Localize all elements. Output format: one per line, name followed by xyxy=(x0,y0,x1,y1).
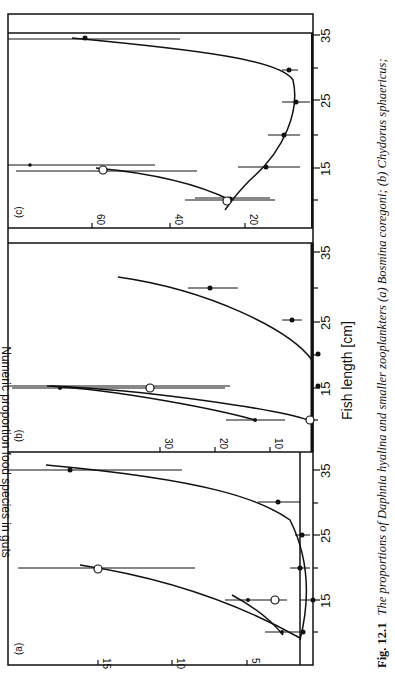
panel-a-ytick-5: 5 xyxy=(250,658,261,664)
panel-c-xtick-15: 15 xyxy=(318,162,333,176)
panel-a-label: (a) xyxy=(13,643,24,655)
figure-caption: Fig. 12.1 The proportions of Daphnia hya… xyxy=(375,58,389,668)
panel-a-xtick-25: 25 xyxy=(318,529,333,543)
panel-b-ytick-30: 30 xyxy=(163,438,174,450)
panel-b-xtick-15: 15 xyxy=(318,382,333,396)
panel-a-xtick-35: 35 xyxy=(318,464,333,478)
panel-c-xtick-25: 25 xyxy=(318,94,333,108)
panel-b-xtick-25: 25 xyxy=(318,316,333,330)
panel-c-ytick-20: 20 xyxy=(248,214,259,226)
panel-c-ytick-40: 40 xyxy=(173,214,184,226)
panel-a-ytick-15: 15 xyxy=(101,658,112,670)
panel-c-ytick-60: 60 xyxy=(95,214,106,226)
panel-a-xtick-15: 15 xyxy=(318,594,333,608)
panel-c-curve-filled xyxy=(72,38,295,210)
caption-label: Fig. 12.1 xyxy=(375,623,389,668)
panel-c-curve-open xyxy=(96,168,230,200)
figure-frame xyxy=(8,14,313,665)
panel-b-ytick-10: 10 xyxy=(273,438,284,450)
y-axis-label: Numeric proportion food species in guts xyxy=(0,346,13,557)
x-axis-label: Fish length [cm] xyxy=(339,321,355,420)
figure: (a) (b) (c) 5 10 15 10 20 30 20 40 60 15… xyxy=(0,0,395,673)
caption-text: The proportions of Daphnia hyalina and s… xyxy=(375,58,389,615)
panel-a-ytick-10: 10 xyxy=(175,658,186,670)
panel-b-xtick-35: 35 xyxy=(318,246,333,260)
panel-a-curve-filled xyxy=(46,465,307,640)
panel-a-curve-open xyxy=(80,565,300,638)
panel-b-curve-filled xyxy=(118,277,312,452)
panel-c-xtick-35: 35 xyxy=(318,29,333,43)
panel-b-ytick-20: 20 xyxy=(218,438,229,450)
panel-c-label: (c) xyxy=(13,206,24,218)
panel-b-label: (b) xyxy=(13,430,24,442)
